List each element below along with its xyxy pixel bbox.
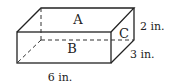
face-label-b: B: [67, 41, 77, 56]
prism-diagram: A B C 2 in. 3 in. 6 in.: [0, 0, 170, 84]
face-label-a: A: [72, 12, 83, 27]
length-label: 6 in.: [48, 71, 73, 84]
front-face: [17, 32, 111, 63]
face-label-c: C: [119, 26, 129, 41]
depth-label: 3 in.: [130, 48, 155, 61]
height-label: 2 in.: [140, 20, 165, 33]
